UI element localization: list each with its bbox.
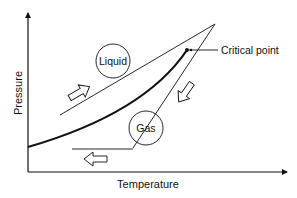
arrow-down-left-icon [173,79,198,106]
gas-region-label: Gas [136,122,155,134]
arrow-up-right-icon [66,80,93,104]
liquid-region-label: Liquid [99,55,127,67]
x-axis-label: Temperature [117,178,179,190]
phase-diagram: Pressure Temperature Critical point Liqu… [0,0,297,198]
y-axis-label: Pressure [12,71,24,115]
arrow-left-icon [84,152,107,166]
critical-point-leader-dot [190,49,192,51]
critical-point-dot [185,48,189,52]
critical-point-label: Critical point [221,44,279,56]
liquid-upper-boundary [60,24,215,115]
